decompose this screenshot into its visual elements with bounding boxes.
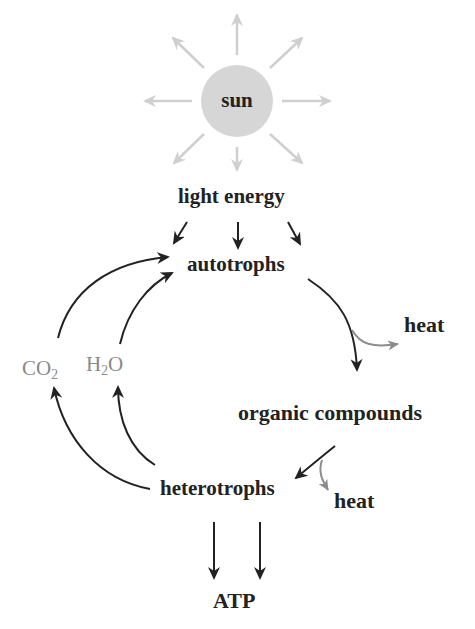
h2o-to-autotrophs-arrow xyxy=(120,273,172,344)
ray-upleft-arrow-icon xyxy=(173,38,204,68)
co2-label: CO2 xyxy=(22,356,58,383)
h2o-subscript: 2 xyxy=(101,363,108,378)
heat-bottom-arrow xyxy=(320,460,328,490)
heterotrophs-to-co2-arrow xyxy=(54,388,150,489)
autotrophs-to-organic-arrow xyxy=(308,279,357,370)
h2o-base-h: H xyxy=(86,352,101,376)
sun-label: sun xyxy=(204,88,270,113)
organic-to-heterotrophs-arrow xyxy=(296,446,335,478)
light-energy-label: light energy xyxy=(178,184,285,209)
autotrophs-label: autotrophs xyxy=(187,252,285,277)
ray-downright-arrow-icon xyxy=(270,134,302,163)
heterotrophs-label: heterotrophs xyxy=(160,476,275,501)
co2-to-autotrophs-arrow xyxy=(58,257,168,338)
co2-subscript: 2 xyxy=(51,367,58,382)
heterotrophs-to-atp-arrows xyxy=(214,522,260,578)
light-to-autotrophs-arrows xyxy=(174,222,300,248)
ray-upright-arrow-icon xyxy=(270,38,302,68)
organic-compounds-label: organic compounds xyxy=(238,400,422,426)
co2-base: CO xyxy=(22,356,51,380)
heat-top-arrow xyxy=(352,330,398,345)
heat-top-label: heat xyxy=(404,312,444,338)
heat-bottom-label: heat xyxy=(334,488,374,514)
atp-label: ATP xyxy=(213,588,255,614)
heterotrophs-to-h2o-arrow xyxy=(118,387,155,465)
ray-downleft-arrow-icon xyxy=(174,134,204,163)
h2o-label: H2O xyxy=(86,352,123,379)
h2o-base-o: O xyxy=(108,352,123,376)
